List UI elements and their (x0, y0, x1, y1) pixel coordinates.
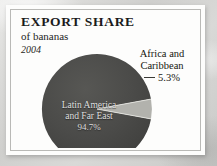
printed-page: EXPORT SHARE of bananas 2004 (6, 5, 205, 155)
callout-value: 5.3% (158, 72, 180, 83)
figure-content: EXPORT SHARE of bananas 2004 (13, 12, 198, 148)
callout-line2: Caribbean (140, 60, 183, 71)
slice-label-line1: Latin America (62, 100, 117, 110)
figure-screenshot: EXPORT SHARE of bananas 2004 (0, 0, 217, 166)
callout-africa-caribbean: Africa and Caribbean 5.3% (126, 48, 198, 84)
leader-line-icon (144, 77, 155, 78)
callout-line1: Africa and (140, 48, 185, 59)
callout-value-row: 5.3% (126, 72, 198, 84)
slice-label-line2: and Far East (65, 111, 113, 121)
slice-label-latin-america: Latin America and Far East 94.7% (34, 100, 144, 133)
slice-label-value: 94.7% (34, 122, 144, 133)
